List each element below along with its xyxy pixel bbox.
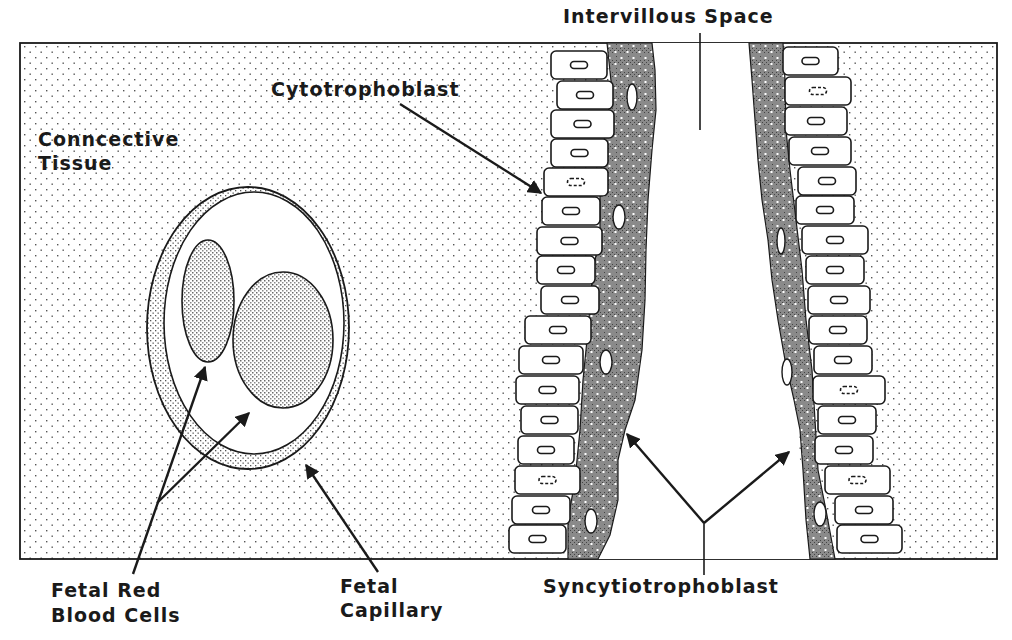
fetal-red-blood-cell-1 <box>182 240 234 362</box>
cell-nucleus <box>812 148 829 155</box>
cell-nucleus <box>568 179 585 186</box>
label-connective-tissue-2: Tissue <box>38 152 113 174</box>
cytotrophoblast-cell <box>815 436 873 464</box>
cell-nucleus <box>819 178 836 185</box>
cytotrophoblast-cell <box>835 496 893 524</box>
label-fetal-capillary-2: Capillary <box>340 599 443 621</box>
cytotrophoblast-cell <box>537 227 602 255</box>
cell-nucleus <box>827 267 844 274</box>
fetal-red-blood-cell-2 <box>233 272 333 408</box>
cytotrophoblast-cell <box>551 51 607 79</box>
label-syncytiotrophoblast: Syncytiotrophoblast <box>543 575 779 597</box>
label-fetal-rbc-1: Fetal Red <box>51 579 161 601</box>
cytotrophoblast-cell <box>525 316 591 344</box>
label-cytotrophoblast: Cytotrophoblast <box>271 78 459 100</box>
cytotrophoblast-cell <box>789 137 851 165</box>
fetal-capillary <box>147 187 349 469</box>
cell-nucleus <box>529 536 546 543</box>
cytotrophoblast-cell <box>802 226 868 254</box>
cell-nucleus <box>561 238 578 245</box>
cell-nucleus <box>541 417 558 424</box>
cell-nucleus <box>802 58 819 65</box>
cell-nucleus <box>571 62 588 69</box>
cytotrophoblast-cell <box>518 436 574 464</box>
cell-nucleus <box>817 207 834 214</box>
cell-nucleus <box>562 297 579 304</box>
cell-nucleus <box>836 447 853 454</box>
cell-nucleus <box>550 327 567 334</box>
cell-nucleus <box>810 88 827 95</box>
cell-nucleus <box>841 387 858 394</box>
cytotrophoblast-cell <box>541 286 599 314</box>
cell-nucleus <box>861 536 878 543</box>
cytotrophoblast-cell <box>515 466 580 494</box>
placenta-villus-diagram: Intervillous Space Cytotrophoblast Connc… <box>0 0 1012 640</box>
cytotrophoblast-cell <box>519 346 583 374</box>
cytotrophoblast-cell <box>551 139 608 167</box>
cell-nucleus <box>839 417 856 424</box>
cytotrophoblast-cell <box>814 346 872 374</box>
cytotrophoblast-cell <box>512 496 570 524</box>
cell-nucleus <box>856 507 873 514</box>
cytotrophoblast-cell <box>557 81 613 109</box>
cell-nucleus <box>543 357 560 364</box>
label-intervillous-space: Intervillous Space <box>563 5 774 27</box>
cytotrophoblast-cell <box>521 406 578 434</box>
cell-nucleus <box>574 121 591 128</box>
cytotrophoblast-cell <box>544 168 608 196</box>
cytotrophoblast-cell <box>537 256 595 284</box>
cell-nucleus <box>827 237 844 244</box>
cell-nucleus <box>831 297 848 304</box>
cytotrophoblast-cell <box>798 167 856 195</box>
cytotrophoblast-cell <box>785 107 847 135</box>
label-fetal-capillary-1: Fetal <box>340 575 399 597</box>
cytotrophoblast-cell <box>837 525 902 553</box>
cytotrophoblast-cell <box>516 376 579 404</box>
cell-nucleus <box>808 118 825 125</box>
cytotrophoblast-cell <box>806 256 864 284</box>
cytotrophoblast-cell <box>542 197 600 225</box>
cytotrophoblast-cell <box>813 376 885 404</box>
cytotrophoblast-cell <box>785 77 851 105</box>
cell-nucleus <box>849 477 866 484</box>
cytotrophoblast-cell <box>509 525 566 553</box>
cytotrophoblast-cell <box>808 286 870 314</box>
cell-nucleus <box>563 208 580 215</box>
cell-nucleus <box>558 267 575 274</box>
cytotrophoblast-cell <box>796 196 854 224</box>
label-fetal-rbc-2: Blood Cells <box>51 604 180 626</box>
cell-nucleus <box>830 327 847 334</box>
cell-nucleus <box>533 507 550 514</box>
cell-nucleus <box>539 387 556 394</box>
cytotrophoblast-cell <box>809 316 867 344</box>
cell-nucleus <box>571 150 588 157</box>
cytotrophoblast-cell <box>825 466 890 494</box>
label-connective-tissue-1: Conncective <box>38 128 179 150</box>
cell-nucleus <box>577 92 594 99</box>
cytotrophoblast-cell <box>551 110 614 138</box>
cell-nucleus <box>539 477 556 484</box>
cell-nucleus <box>835 357 852 364</box>
cytotrophoblast-cell <box>783 47 838 75</box>
cytotrophoblast-cell <box>818 406 876 434</box>
cell-nucleus <box>538 447 555 454</box>
